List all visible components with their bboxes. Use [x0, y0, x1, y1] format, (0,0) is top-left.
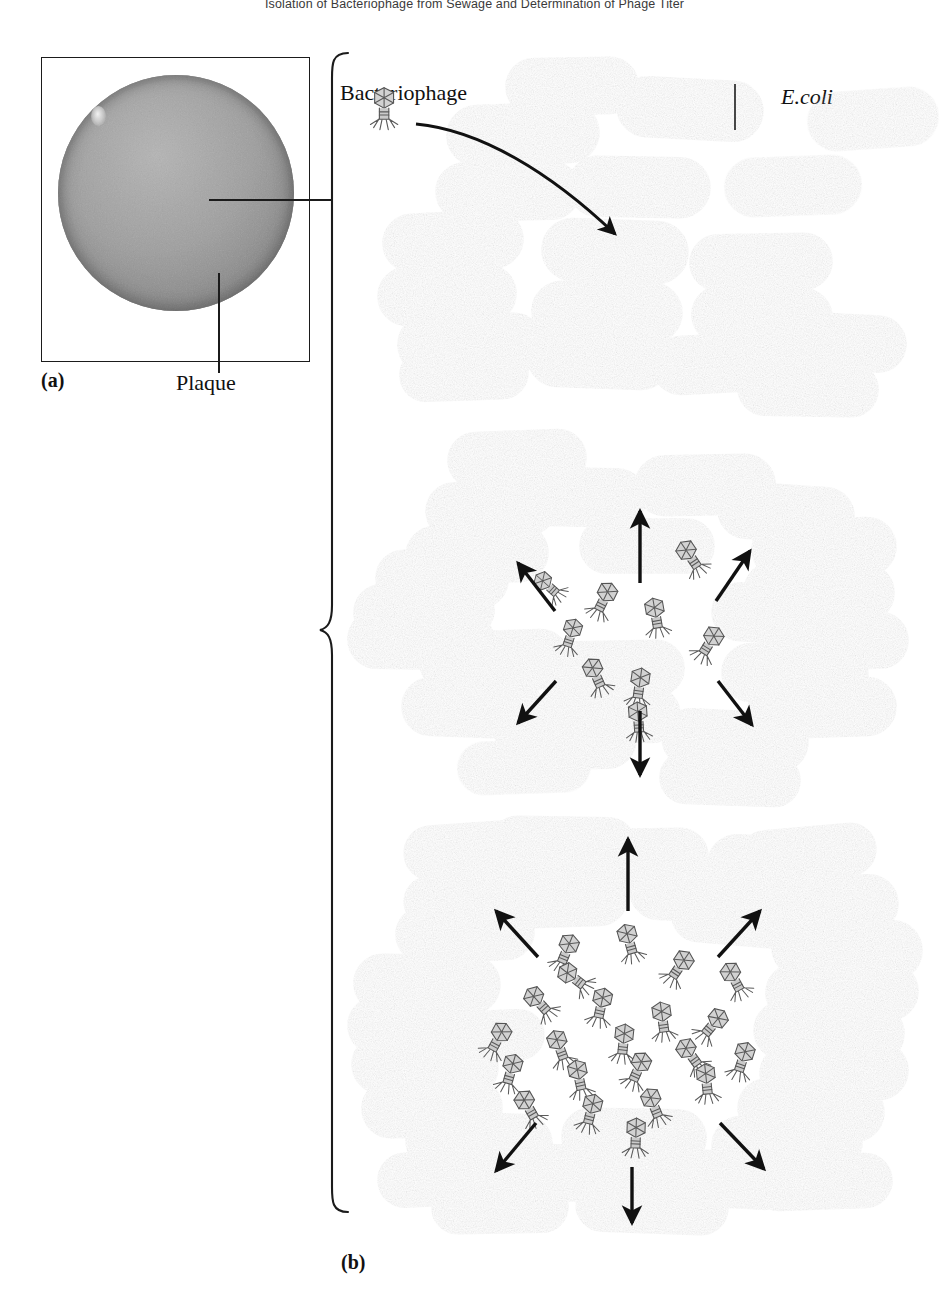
bacteriophage-icon-stage-1: [370, 88, 397, 130]
stage-3-large-plaque: [340, 815, 940, 1235]
panel-a-label: (a): [41, 369, 64, 392]
plate-to-brace-leader-line: [209, 199, 331, 201]
panel-a-plate-photograph: Plaque: [41, 57, 310, 362]
plaque-label: Plaque: [176, 370, 236, 396]
dish-highlight: [91, 106, 106, 126]
bacteria-lawn-stage-3: [347, 816, 923, 1236]
bacteria-lawn-stage-1: [377, 57, 940, 417]
plate-photo-frame: [41, 57, 310, 362]
petri-dish-photo: [58, 75, 294, 311]
bacterial-lawn-dish: [58, 75, 294, 311]
running-head: Isolation of Bacteriophage from Sewage a…: [0, 0, 949, 11]
plaque-leader-line: [218, 273, 220, 373]
stage-2-small-plaque: [340, 423, 940, 808]
panel-b-label: (b): [341, 1251, 365, 1274]
stage-1-infection: [340, 52, 940, 397]
figure-bacteriophage-plaque-formation: Isolation of Bacteriophage from Sewage a…: [0, 0, 949, 1307]
bacteria-lawn-stage-2: [348, 429, 909, 808]
